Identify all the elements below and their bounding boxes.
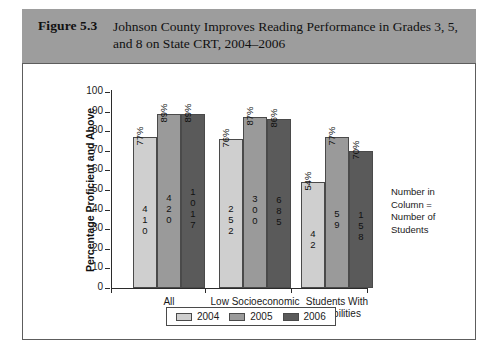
legend-swatch	[229, 313, 245, 321]
bar[interactable]: 86%685	[267, 119, 291, 288]
bar-count-digit: 4	[302, 228, 324, 239]
bar-value-label: 89%	[182, 103, 193, 122]
y-axis-tick-mark	[105, 288, 110, 289]
bar-value-label: 86%	[268, 109, 279, 128]
bar-value-label-holder: 87%	[244, 88, 266, 118]
bar-count-digit: 1	[182, 186, 204, 197]
bar[interactable]: 87%300	[243, 117, 267, 288]
bar-value-label-holder: 89%	[182, 85, 204, 115]
bar-value-label: 87%	[244, 107, 255, 126]
bar-count-digits: 158	[350, 208, 372, 241]
bar-group: 76%25287%30086%685	[219, 92, 291, 288]
bar-count-digit: 4	[134, 202, 156, 213]
bar-value-label: 89%	[158, 103, 169, 122]
x-axis-tick-mark	[291, 288, 292, 293]
bar-value-label-holder: 70%	[350, 122, 372, 152]
bar-count-digit: 7	[182, 219, 204, 230]
bar-count-digit: 5	[268, 216, 290, 227]
y-axis-tick-label: 30	[92, 222, 103, 233]
y-axis-tick-label: 10	[92, 261, 103, 272]
bar-count-digit: 2	[220, 203, 242, 214]
bar-value-label: 76%	[220, 129, 231, 148]
bar-value-label-holder: 54%	[302, 153, 324, 183]
bar-count-digit: 4	[158, 191, 180, 202]
legend-item[interactable]: 2004	[176, 311, 219, 322]
y-axis-tick-mark	[105, 151, 110, 152]
legend-item[interactable]: 2005	[229, 311, 272, 322]
bar-value-label: 54%	[302, 172, 313, 191]
figure-number: Figure 5.3	[38, 18, 97, 34]
legend-item[interactable]: 2006	[283, 311, 326, 322]
bar[interactable]: 89%1017	[181, 114, 205, 288]
note-line-3: Number of	[391, 211, 477, 224]
chart-panel: Percentage Proficient and Above 10090807…	[22, 63, 476, 340]
figure-container: Figure 5.3 Johnson County Improves Readi…	[22, 9, 476, 341]
legend-label: 2005	[250, 311, 272, 322]
y-axis-tick-mark	[105, 170, 110, 171]
bar-value-label-holder: 89%	[158, 85, 180, 115]
chart-legend: 200420052006	[166, 307, 336, 326]
y-axis-tick-mark	[105, 268, 110, 269]
bar[interactable]: 70%158	[349, 151, 373, 288]
y-axis-tick-label: 90	[92, 105, 103, 116]
bar-count-digit: 0	[244, 215, 266, 226]
bar-count-digit: 3	[244, 193, 266, 204]
bar-count-digits: 420	[158, 191, 180, 224]
bar-count-digit: 2	[302, 239, 324, 250]
bar-count-digit: 5	[326, 208, 348, 219]
y-axis-tick-label: 70	[92, 144, 103, 155]
bar-count-digit: 2	[220, 225, 242, 236]
bar-count-digit: 1	[134, 213, 156, 224]
bar-count-digits: 42	[302, 228, 324, 250]
bar-group: 77%41089%42089%1017	[133, 92, 205, 288]
bar-count-digit: 8	[268, 205, 290, 216]
bar-value-label-holder: 86%	[268, 90, 290, 120]
bar[interactable]: 89%420	[157, 114, 181, 288]
bar-count-digit: 0	[182, 197, 204, 208]
bar-count-digit: 0	[244, 204, 266, 215]
y-axis-tick-mark	[105, 131, 110, 132]
bar-count-digit: 8	[350, 230, 372, 241]
note-line-1: Number in	[391, 186, 477, 199]
bar-count-digit: 2	[158, 202, 180, 213]
figure-title: Johnson County Improves Reading Performa…	[113, 18, 458, 52]
plot-area: 77%41089%42089%101776%25287%30086%68554%…	[111, 92, 365, 288]
chart-note: Number in Column = Number of Students	[391, 186, 477, 236]
legend-label: 2006	[304, 311, 326, 322]
bar-count-digit: 0	[134, 224, 156, 235]
y-axis-tick-mark	[105, 229, 110, 230]
y-axis-tick-label: 20	[92, 242, 103, 253]
bar-count-digits: 59	[326, 208, 348, 230]
y-axis-tick-mark	[105, 190, 110, 191]
bar-count-digits: 1017	[182, 186, 204, 230]
y-axis-tick-label: 60	[92, 163, 103, 174]
y-axis-tick-mark	[105, 92, 110, 93]
note-line-4: Students	[391, 224, 477, 237]
bar[interactable]: 54%42	[301, 182, 325, 288]
bar-value-label-holder: 76%	[220, 110, 242, 140]
bar-value-label: 77%	[134, 127, 145, 146]
y-axis-tick-label: 100	[86, 85, 103, 96]
bar-count-digit: 5	[350, 219, 372, 230]
bar-count-digit: 5	[220, 214, 242, 225]
bar[interactable]: 76%252	[219, 139, 243, 288]
bar-count-digits: 300	[244, 193, 266, 226]
note-line-2: Column =	[391, 199, 477, 212]
y-axis-tick-label: 40	[92, 203, 103, 214]
bar-count-digit: 0	[158, 213, 180, 224]
bar-value-label-holder: 77%	[134, 108, 156, 138]
bar-value-label: 77%	[326, 127, 337, 146]
y-axis-tick-mark	[105, 210, 110, 211]
bar[interactable]: 77%410	[133, 137, 157, 288]
bar-count-digit: 1	[182, 208, 204, 219]
y-axis-tick-label: 50	[92, 183, 103, 194]
bar-group: 54%4277%5970%158	[301, 92, 373, 288]
x-axis-tick-mark	[111, 288, 112, 293]
bar-value-label: 70%	[350, 140, 361, 159]
bar-count-digits: 685	[268, 194, 290, 227]
bar-value-label-holder: 77%	[326, 108, 348, 138]
bar-count-digits: 410	[134, 202, 156, 235]
x-axis-tick-mark	[205, 288, 206, 293]
bar[interactable]: 77%59	[325, 137, 349, 288]
bar-count-digit: 9	[326, 219, 348, 230]
